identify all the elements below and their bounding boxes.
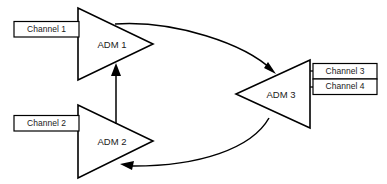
adm3-to-adm2-arrowhead — [120, 161, 134, 170]
diagram-canvas: ADM 1 ADM 2 ADM 3 Channel 1 Channel 2 Ch… — [0, 0, 387, 184]
adm1-label: ADM 1 — [97, 39, 126, 50]
channel1-label: Channel 1 — [27, 24, 66, 34]
adm2-label: ADM 2 — [97, 136, 126, 147]
adm2-to-adm1-arrowhead — [111, 63, 121, 76]
channel2-label: Channel 2 — [27, 118, 66, 128]
connection-adm2-to-adm1 — [111, 63, 121, 124]
channel4-label: Channel 4 — [326, 81, 365, 91]
channel3-label: Channel 3 — [326, 66, 365, 76]
adm3-label: ADM 3 — [266, 89, 295, 100]
adm-network-diagram: ADM 1 ADM 2 ADM 3 Channel 1 Channel 2 Ch… — [0, 0, 387, 184]
